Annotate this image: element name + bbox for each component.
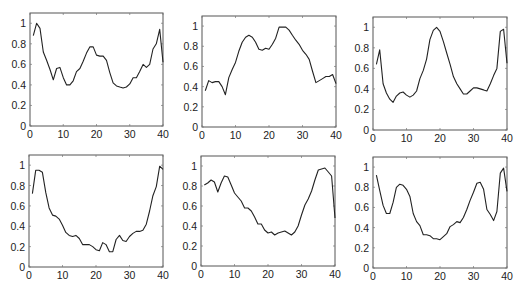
x-tick-label: 40 bbox=[330, 129, 342, 141]
y-tick-label: 0.8 bbox=[354, 42, 369, 54]
x-tick-label: 10 bbox=[401, 270, 413, 282]
subplot-6: 01020304000.20.40.60.81 bbox=[354, 157, 513, 282]
y-tick-label: 0 bbox=[19, 261, 25, 273]
y-tick-label: 0.8 bbox=[182, 180, 197, 192]
x-tick-label: 10 bbox=[57, 269, 69, 281]
y-tick-label: 0.4 bbox=[183, 81, 198, 93]
y-tick-label: 0 bbox=[20, 120, 26, 132]
y-tick-label: 0.6 bbox=[354, 201, 369, 213]
y-tick-label: 0.6 bbox=[11, 58, 26, 70]
y-tick-label: 1 bbox=[363, 21, 369, 33]
axes-frame bbox=[373, 157, 507, 268]
x-tick-label: 30 bbox=[124, 269, 136, 281]
subplot-3: 01020304000.20.40.60.81 bbox=[354, 17, 513, 144]
x-tick-label: 0 bbox=[198, 268, 204, 280]
x-tick-label: 30 bbox=[124, 128, 136, 140]
x-tick-label: 30 bbox=[468, 132, 480, 144]
y-tick-label: 0.4 bbox=[10, 220, 25, 232]
y-tick-label: 0.2 bbox=[183, 101, 198, 113]
subplot-5: 01020304000.20.40.60.81 bbox=[182, 156, 341, 280]
data-line bbox=[32, 166, 163, 252]
x-tick-label: 20 bbox=[263, 129, 275, 141]
y-tick-label: 0.6 bbox=[354, 62, 369, 74]
subplot-1: 01020304000.20.40.60.81 bbox=[11, 13, 169, 140]
y-tick-label: 0.2 bbox=[354, 242, 369, 254]
axes-frame bbox=[201, 156, 335, 266]
y-tick-label: 0.2 bbox=[182, 240, 197, 252]
y-tick-label: 0.2 bbox=[11, 99, 26, 111]
y-tick-label: 0.4 bbox=[354, 83, 369, 95]
y-tick-label: 0.8 bbox=[11, 38, 26, 50]
x-tick-label: 20 bbox=[91, 128, 103, 140]
y-tick-label: 1 bbox=[192, 20, 198, 32]
data-line bbox=[376, 27, 507, 102]
x-tick-label: 40 bbox=[501, 270, 513, 282]
x-tick-label: 0 bbox=[370, 132, 376, 144]
y-tick-label: 0 bbox=[191, 260, 197, 272]
data-line bbox=[33, 23, 163, 88]
data-line bbox=[204, 168, 335, 235]
data-line bbox=[376, 168, 507, 240]
x-tick-label: 0 bbox=[199, 129, 205, 141]
y-tick-label: 0.4 bbox=[182, 220, 197, 232]
x-tick-label: 20 bbox=[90, 269, 102, 281]
x-tick-label: 0 bbox=[26, 269, 32, 281]
y-tick-label: 0 bbox=[192, 121, 198, 133]
y-tick-label: 1 bbox=[191, 160, 197, 172]
axes-frame bbox=[373, 17, 507, 130]
x-tick-label: 40 bbox=[157, 269, 169, 281]
y-tick-label: 0.2 bbox=[10, 241, 25, 253]
y-tick-label: 0.6 bbox=[10, 200, 25, 212]
x-tick-label: 10 bbox=[401, 132, 413, 144]
x-tick-label: 20 bbox=[434, 270, 446, 282]
x-tick-label: 30 bbox=[468, 270, 480, 282]
y-tick-label: 0.2 bbox=[354, 103, 369, 115]
y-tick-label: 0.8 bbox=[183, 40, 198, 52]
x-tick-label: 10 bbox=[229, 268, 241, 280]
y-tick-label: 0.4 bbox=[11, 79, 26, 91]
x-tick-label: 40 bbox=[329, 268, 341, 280]
x-tick-label: 10 bbox=[230, 129, 242, 141]
y-tick-label: 0.6 bbox=[183, 60, 198, 72]
y-tick-label: 0.4 bbox=[354, 222, 369, 234]
subplot-4: 01020304000.20.40.60.81 bbox=[10, 155, 169, 281]
y-tick-label: 0.8 bbox=[10, 180, 25, 192]
data-line bbox=[205, 27, 336, 95]
y-tick-label: 0 bbox=[363, 124, 369, 136]
y-tick-label: 1 bbox=[19, 159, 25, 171]
x-tick-label: 40 bbox=[157, 128, 169, 140]
x-tick-label: 20 bbox=[434, 132, 446, 144]
x-tick-label: 0 bbox=[370, 270, 376, 282]
x-tick-label: 30 bbox=[296, 268, 308, 280]
chart-grid: 01020304000.20.40.60.8101020304000.20.40… bbox=[0, 0, 522, 292]
y-tick-label: 0.6 bbox=[182, 200, 197, 212]
y-tick-label: 0.8 bbox=[354, 181, 369, 193]
axes-frame bbox=[202, 16, 336, 127]
x-tick-label: 40 bbox=[501, 132, 513, 144]
y-tick-label: 0 bbox=[363, 262, 369, 274]
x-tick-label: 10 bbox=[57, 128, 69, 140]
x-tick-label: 30 bbox=[297, 129, 309, 141]
x-tick-label: 20 bbox=[262, 268, 274, 280]
y-tick-label: 1 bbox=[20, 17, 26, 29]
y-tick-label: 1 bbox=[363, 161, 369, 173]
subplot-2: 01020304000.20.40.60.81 bbox=[183, 16, 342, 141]
x-tick-label: 0 bbox=[27, 128, 33, 140]
